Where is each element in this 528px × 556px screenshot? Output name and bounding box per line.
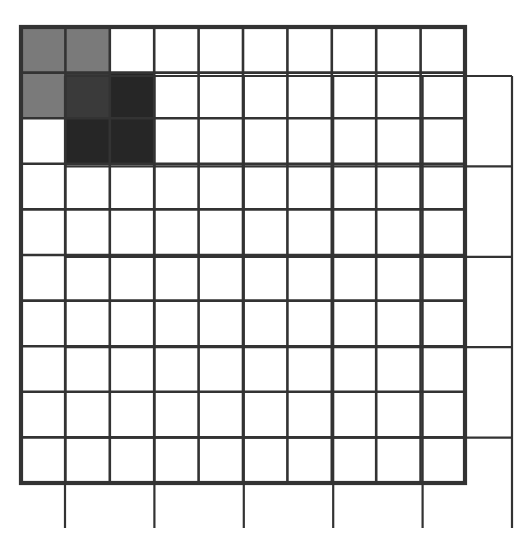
shaded-cell-square-a: [21, 73, 66, 119]
shaded-cell-square-a: [21, 27, 66, 73]
shaded-cell-square-b: [110, 118, 155, 164]
grid-figure: [0, 0, 528, 556]
shaded-cell-overlap: [65, 73, 110, 119]
shaded-cell-square-b: [110, 73, 155, 119]
shaded-cell-square-b: [65, 118, 110, 164]
shaded-cells: [21, 27, 155, 164]
shaded-cell-square-a: [65, 27, 110, 73]
